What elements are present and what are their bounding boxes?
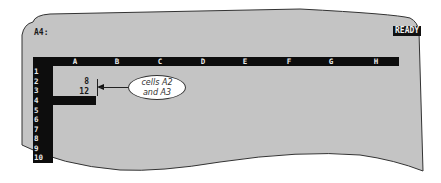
column-header-b[interactable]: B	[109, 57, 125, 66]
cell-reference-indicator: A4:	[34, 28, 48, 37]
annotation-callout: cells A2 and A3	[128, 75, 186, 100]
cell-pointer-a4[interactable]	[53, 96, 96, 105]
column-header-d[interactable]: D	[195, 57, 211, 66]
column-header-f[interactable]: F	[281, 57, 297, 66]
cell-a2[interactable]: 8	[53, 77, 89, 87]
column-header-bar	[33, 57, 399, 66]
row-header-6[interactable]: 6	[34, 115, 39, 125]
row-header-3[interactable]: 3	[34, 86, 39, 96]
mode-indicator: READY	[393, 26, 421, 36]
column-header-g[interactable]: G	[323, 57, 339, 66]
column-header-c[interactable]: C	[152, 57, 168, 66]
row-header-8[interactable]: 8	[34, 134, 39, 144]
callout-line-1: cells A2	[129, 78, 185, 88]
row-header-10[interactable]: 10	[34, 153, 43, 163]
column-header-h[interactable]: H	[368, 57, 384, 66]
row-header-1[interactable]: 1	[34, 67, 39, 77]
column-header-e[interactable]: E	[237, 57, 253, 66]
callout-line-2: and A3	[129, 88, 185, 98]
callout-arrow-line	[100, 87, 128, 88]
row-header-4[interactable]: 4	[34, 96, 39, 106]
column-header-a[interactable]: A	[67, 57, 83, 66]
